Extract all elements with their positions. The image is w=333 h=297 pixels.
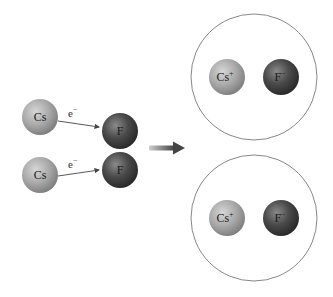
fluorine-atom-label: F <box>117 124 124 138</box>
product-ion-pair-1: Cs+ F− <box>191 14 317 140</box>
cesium-ion-charge: + <box>229 210 234 219</box>
svg-text:e−: e− <box>68 105 78 119</box>
fluorine-molecule: F F <box>102 113 138 188</box>
cesium-atom-label: Cs <box>34 110 47 124</box>
electron-charge: − <box>73 105 78 114</box>
product-ion-pair-2: Cs+ F− <box>191 155 317 281</box>
electron-charge: − <box>73 156 78 165</box>
fluoride-ion-charge: − <box>281 210 286 219</box>
electron-transfer-1: e− <box>58 105 99 127</box>
fluorine-atom-label: F <box>117 163 124 177</box>
fluoride-ion-charge: − <box>281 69 286 78</box>
cesium-atom-2: Cs <box>22 157 58 193</box>
svg-text:e−: e− <box>68 156 78 170</box>
electron-arrow-icon <box>58 121 99 127</box>
ionic-bond-diagram: Cs Cs e− e− F F Cs+ F− Cs+ F− <box>0 0 333 297</box>
cesium-atom-label: Cs <box>34 168 47 182</box>
cesium-ion-charge: + <box>229 69 234 78</box>
reaction-arrow-icon <box>149 142 185 155</box>
electron-arrow-icon <box>58 170 99 176</box>
cesium-ion-label: Cs <box>216 211 229 225</box>
cesium-atom-1: Cs <box>22 99 58 135</box>
cesium-ion-label: Cs <box>216 70 229 84</box>
electron-transfer-2: e− <box>58 156 99 176</box>
